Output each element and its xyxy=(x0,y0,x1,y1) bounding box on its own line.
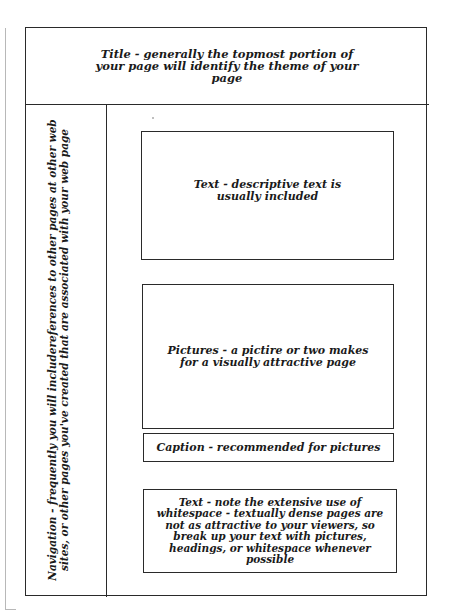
scan-edge-foot xyxy=(5,609,16,610)
text-box-whitespace-label: Text - note the extensive use of whitesp… xyxy=(155,497,385,566)
navigation-region: Navigation - frequently you will include… xyxy=(25,104,107,597)
caption-box: Caption - recommended for pictures xyxy=(143,433,394,462)
text-box-descriptive: Text - descriptive text is usually inclu… xyxy=(141,131,394,260)
scan-speck xyxy=(152,117,154,119)
caption-box-label: Caption - recommended for pictures xyxy=(156,442,380,454)
title-region-text: Title - generally the topmost portion of… xyxy=(87,48,367,84)
text-box-whitespace: Text - note the extensive use of whitesp… xyxy=(143,489,397,573)
pictures-box-label: Pictures - a pictire or two makes for a … xyxy=(163,345,373,369)
scan-edge-line xyxy=(5,28,6,610)
navigation-region-text: Navigation - frequently you will include… xyxy=(46,110,86,590)
title-region: Title - generally the topmost portion of… xyxy=(25,27,429,105)
text-box-descriptive-label: Text - descriptive text is usually inclu… xyxy=(193,179,343,203)
pictures-box: Pictures - a pictire or two makes for a … xyxy=(142,284,394,429)
